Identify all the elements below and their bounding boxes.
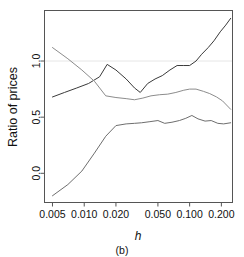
panel-label: (b) (116, 244, 129, 256)
x-tick-label: 0.010 (71, 208, 97, 220)
y-tick-label: 0.0 (30, 166, 42, 181)
y-tick-label: 1.0 (30, 54, 42, 69)
x-tick-label: 0.100 (176, 208, 202, 220)
x-tick-label: 0.020 (103, 208, 129, 220)
x-tick-label: 0.200 (208, 208, 234, 220)
x-tick-label: 0.050 (145, 208, 171, 220)
figure-panel-b: 0.0050.0100.0200.0500.1000.200 0.00.51.0… (0, 0, 244, 257)
x-tick-label: 0.005 (39, 208, 65, 220)
x-axis-title: h (135, 229, 142, 243)
y-tick-label: 0.5 (30, 110, 42, 125)
ratio-of-prices-line-chart: 0.0050.0100.0200.0500.1000.200 0.00.51.0… (0, 0, 244, 257)
y-axis-title: Ratio of prices (6, 67, 20, 147)
